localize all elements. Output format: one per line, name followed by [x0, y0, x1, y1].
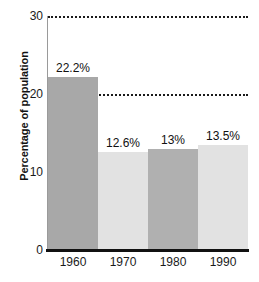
- x-axis-line: [46, 249, 249, 252]
- y-tick-20: 20: [3, 87, 43, 101]
- x-tick-1990: 1990: [198, 255, 248, 269]
- caption-remnant: [8, 274, 248, 282]
- value-label-1990: 13.5%: [193, 129, 253, 143]
- x-tick-1980: 1980: [148, 255, 198, 269]
- bar-1980[interactable]: [148, 149, 198, 250]
- y-tick-0: 0: [3, 243, 43, 257]
- y-tick-30: 30: [3, 9, 43, 23]
- y-tick-10: 10: [3, 165, 43, 179]
- gridline-30: [48, 16, 248, 18]
- bar-1970[interactable]: [98, 152, 148, 250]
- x-tick-1960: 1960: [48, 255, 98, 269]
- bar-chart: Percentage of population 0102030 1960197…: [0, 0, 259, 282]
- value-label-1960: 22.2%: [43, 61, 103, 75]
- bar-1990[interactable]: [198, 145, 248, 250]
- x-tick-1970: 1970: [98, 255, 148, 269]
- bar-1960[interactable]: [48, 77, 98, 250]
- y-axis-tick-labels: 0102030: [0, 0, 43, 282]
